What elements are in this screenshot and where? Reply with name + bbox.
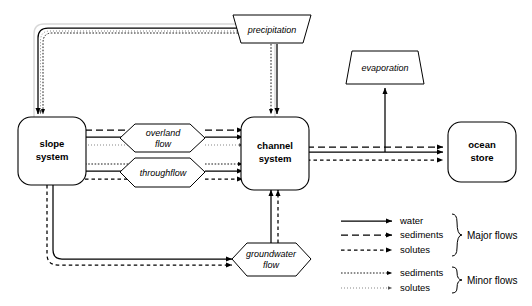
- channel-system-label-line1: channel: [257, 140, 293, 151]
- legend-item-minor-solutes: solutes: [341, 282, 430, 293]
- overland-flow-label-line1: overland: [146, 128, 182, 138]
- scan-artifact-line: [34, 24, 238, 120]
- legend-item-minor-sediments: sediments: [341, 267, 444, 278]
- legend-item-major-water: water: [341, 215, 423, 226]
- node-groundwater-flow[interactable]: groundwater flow: [232, 243, 311, 276]
- node-slope-system[interactable]: slope system: [18, 117, 86, 185]
- legend-brace-minor: [452, 267, 462, 293]
- ocean-store-label-line1: ocean: [468, 139, 496, 150]
- flow-precipitation-to-slope-sediments: [43, 33, 238, 114]
- legend-label-water: water: [399, 215, 423, 226]
- node-throughflow[interactable]: throughflow: [120, 158, 205, 187]
- flow-slope-to-groundwater-water: [53, 185, 232, 259]
- overland-flow-label-line2: flow: [155, 139, 172, 149]
- ocean-store-label-line2: store: [470, 152, 493, 163]
- precipitation-label: precipitation: [247, 25, 297, 35]
- groundwater-flow-label-line1: groundwater: [246, 249, 297, 259]
- node-evaporation[interactable]: evaporation: [346, 51, 424, 84]
- legend-label-minor-solutes: solutes: [400, 282, 430, 293]
- legend-group-label-major: Major flows: [467, 230, 518, 241]
- slope-system-label-line1: slope: [40, 138, 65, 149]
- evaporation-label: evaporation: [361, 63, 408, 73]
- legend-group-label-minor: Minor flows: [467, 275, 518, 286]
- legend: water sediments solutes Major flows sedi…: [341, 214, 518, 293]
- legend-brace-major: [452, 214, 462, 256]
- drainage-basin-diagram: slope system channel system ocean store …: [0, 0, 532, 306]
- node-precipitation[interactable]: precipitation: [233, 15, 311, 43]
- flow-slope-to-groundwater-solutes: [47, 185, 232, 265]
- node-overland-flow[interactable]: overland flow: [120, 124, 205, 152]
- groundwater-flow-label-line2: flow: [263, 260, 280, 270]
- legend-label-solutes: solutes: [400, 244, 430, 255]
- node-ocean-store[interactable]: ocean store: [448, 122, 516, 182]
- legend-label-sediments: sediments: [400, 229, 444, 240]
- slope-system-label-line2: system: [36, 151, 69, 162]
- diagram-canvas: slope system channel system ocean store …: [0, 0, 532, 306]
- legend-label-minor-sediments: sediments: [400, 267, 444, 278]
- throughflow-label: throughflow: [140, 168, 187, 178]
- channel-system-label-line2: system: [259, 153, 292, 164]
- flow-precipitation-to-slope-solutes: [41, 31, 241, 114]
- flow-precipitation-to-slope-water: [38, 28, 238, 114]
- legend-item-major-sediments: sediments: [341, 229, 444, 240]
- node-channel-system[interactable]: channel system: [241, 117, 309, 190]
- legend-item-major-solutes: solutes: [341, 244, 430, 255]
